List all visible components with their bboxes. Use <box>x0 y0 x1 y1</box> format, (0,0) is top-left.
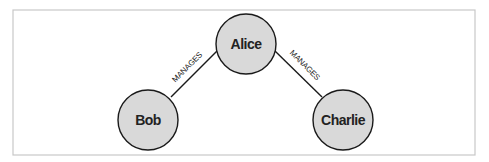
node-charlie[interactable]: Charlie <box>313 90 373 150</box>
node-alice[interactable]: Alice <box>216 14 276 74</box>
node-label-bob: Bob <box>135 112 161 128</box>
node-label-alice: Alice <box>231 36 263 52</box>
node-label-charlie: Charlie <box>321 112 366 128</box>
diagram-canvas: MANAGES MANAGES Alice Bob Charlie <box>0 0 489 162</box>
node-bob[interactable]: Bob <box>118 90 178 150</box>
